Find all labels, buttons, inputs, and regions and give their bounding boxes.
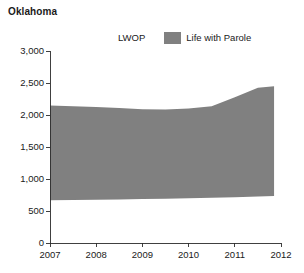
x-tick-label: 2009	[122, 250, 162, 260]
x-tick-label: 2011	[215, 250, 255, 260]
y-tick-label: 500	[8, 206, 44, 216]
area-series-layer	[50, 86, 274, 243]
y-tick-label: 1,500	[8, 142, 44, 152]
y-tick-label: 0	[8, 238, 44, 248]
plot-area	[0, 0, 304, 273]
y-tick-label: 2,000	[8, 110, 44, 120]
y-tick-label: 3,000	[8, 46, 44, 56]
area-series-lwop	[50, 196, 274, 243]
area-series-life-with-parole	[50, 86, 274, 200]
x-tick-label: 2008	[76, 250, 116, 260]
x-tick-label: 2010	[169, 250, 209, 260]
x-tick-label: 2007	[30, 250, 70, 260]
y-tick-label: 2,500	[8, 78, 44, 88]
y-tick-label: 1,000	[8, 174, 44, 184]
x-tick-label: 2012	[261, 250, 301, 260]
chart-container: Oklahoma LWOP Life with Parole 05001,000…	[0, 0, 304, 273]
